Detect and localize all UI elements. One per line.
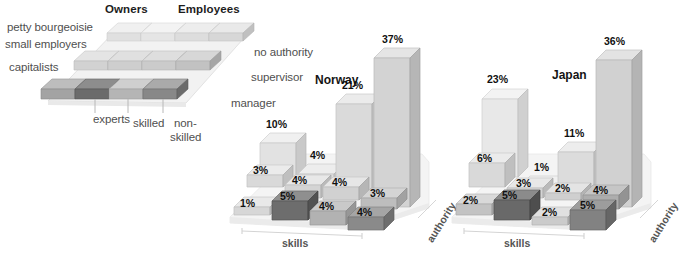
norway-value-manager-nonskilled-b: 4% (357, 206, 372, 218)
japan-value-no-authority-nonskilled-a: 11% (564, 127, 584, 139)
row-label-petty-bourgeoisie: petty bourgeoisie (7, 21, 93, 33)
skill-label-skilled: skilled (133, 117, 164, 129)
japan-title: Japan (552, 68, 587, 82)
japan-value-supervisor-nonskilled-a: 2% (555, 182, 570, 194)
norway-axis-skills: skills (282, 237, 308, 249)
norway-value-supervisor-skilled: 4% (292, 174, 307, 186)
column-header-employees: Employees (178, 3, 240, 15)
skill-label-nonskilled-line1: non- (174, 117, 197, 129)
japan-3d-chart (444, 25, 674, 264)
norway-value-supervisor-nonskilled-b: 3% (370, 187, 385, 199)
japan-value-manager-nonskilled-b: 5% (580, 199, 595, 211)
norway-value-no-authority-nonskilled-b: 37% (382, 33, 403, 45)
japan-value-supervisor-skilled: 3% (516, 177, 531, 189)
norway-value-manager-nonskilled-a: 4% (319, 200, 334, 212)
norway-3d-chart (222, 25, 447, 264)
japan-value-supervisor-nonskilled-b: 4% (593, 184, 608, 196)
column-header-owners: Owners (105, 3, 148, 15)
skill-label-nonskilled-line2: skilled (170, 131, 201, 143)
japan-value-no-authority-skilled: 1% (534, 161, 549, 173)
norway-value-no-authority-nonskilled-a: 21% (342, 79, 363, 91)
norway-value-supervisor-experts: 3% (253, 164, 268, 176)
norway-bar-no-authority-nonskilled-b (374, 48, 420, 207)
row-label-small-employers: small employers (5, 38, 87, 50)
japan-value-manager-skilled: 5% (502, 189, 517, 201)
japan-value-manager-experts: 2% (463, 194, 478, 206)
norway-value-no-authority-skilled: 4% (310, 149, 325, 161)
japan-panel: Japan 23% 1% 11% 36% 6% 3% 2% 4% 2% 5% 2… (444, 25, 674, 264)
norway-value-manager-skilled: 5% (280, 190, 295, 202)
norway-value-no-authority-experts: 10% (266, 118, 287, 130)
norway-value-manager-experts: 1% (240, 197, 255, 209)
japan-value-manager-nonskilled-a: 2% (542, 206, 557, 218)
skill-label-experts: experts (93, 113, 130, 125)
norway-panel: Norway 10% 4% 21% 37% 3% 4% 4% 3% 1% 5% … (222, 25, 447, 264)
row-label-capitalists: capitalists (9, 61, 58, 73)
norway-value-supervisor-nonskilled-a: 4% (332, 176, 347, 188)
japan-axis-skills: skills (504, 237, 530, 249)
japan-value-no-authority-nonskilled-b: 36% (604, 35, 625, 47)
japan-value-supervisor-experts: 6% (477, 152, 492, 164)
japan-value-no-authority-experts: 23% (487, 73, 508, 85)
